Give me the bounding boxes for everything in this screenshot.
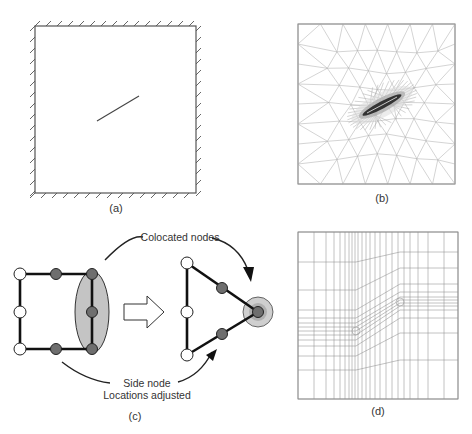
panel-c: [14, 237, 273, 383]
quarter-point-node: [217, 283, 228, 294]
figure-canvas: [0, 0, 472, 434]
arrowhead-icon: [243, 267, 254, 282]
caption-c: (c): [115, 410, 155, 422]
quadrilateral-mesh: [298, 232, 458, 399]
side-node-label-line1: Side node: [102, 377, 192, 389]
colocated-arrow-left: [105, 237, 143, 260]
caption-b: (b): [362, 192, 402, 204]
corner-node: [181, 257, 193, 269]
colocated-node: [87, 269, 98, 280]
caption-a: (a): [96, 202, 136, 214]
caption-d: (d): [358, 405, 398, 417]
corner-node: [14, 268, 26, 280]
panel-a: [30, 21, 201, 198]
midside-node: [51, 344, 62, 355]
midside-node: [51, 269, 62, 280]
transform-arrow-icon: [124, 296, 164, 328]
panel-d: [298, 232, 458, 399]
crack-line: [97, 96, 139, 121]
panel-b: [298, 24, 455, 184]
side-node-label-line2: Locations adjusted: [102, 389, 192, 401]
quarter-point-node: [217, 329, 228, 340]
crack-tip-node: [253, 307, 264, 318]
colocated-node: [87, 307, 98, 318]
corner-node: [181, 349, 193, 361]
side-node: [14, 306, 26, 318]
side-node: [181, 306, 193, 318]
colocated-node: [87, 344, 98, 355]
colocated-nodes-label: Colocated nodes: [140, 231, 220, 243]
corner-node: [14, 343, 26, 355]
